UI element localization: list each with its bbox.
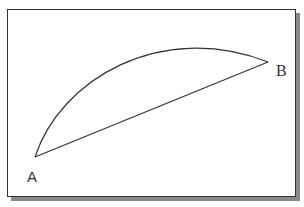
- point-a-label: A: [27, 168, 37, 185]
- point-b-label: B: [276, 62, 287, 79]
- chord-a-to-b: [35, 62, 268, 157]
- diagram-canvas: A B: [0, 0, 304, 207]
- arc-a-to-b: [35, 48, 268, 157]
